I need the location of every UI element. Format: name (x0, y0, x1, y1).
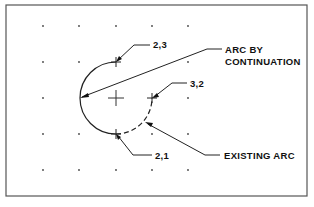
label-point-2-1: 2,1 (155, 150, 169, 161)
label-existing-arc: EXISTING ARC (224, 150, 295, 161)
center-mark-icon (108, 90, 124, 106)
arrow-icon (80, 93, 89, 98)
drawing-frame (6, 5, 307, 196)
label-point-3-2: 3,2 (190, 78, 204, 89)
label-arc-by-line1: ARC BY (225, 44, 263, 55)
leader-2-3 (116, 45, 150, 62)
label-arc-by-line2: CONTINUATION (225, 56, 301, 67)
existing-arc (116, 98, 152, 134)
leader-arc-by-continuation (80, 49, 222, 98)
leader-3-2 (152, 83, 187, 98)
label-point-2-3: 2,3 (153, 39, 167, 50)
leader-2-1 (116, 134, 152, 155)
arc-continuation-diagram (0, 0, 314, 207)
